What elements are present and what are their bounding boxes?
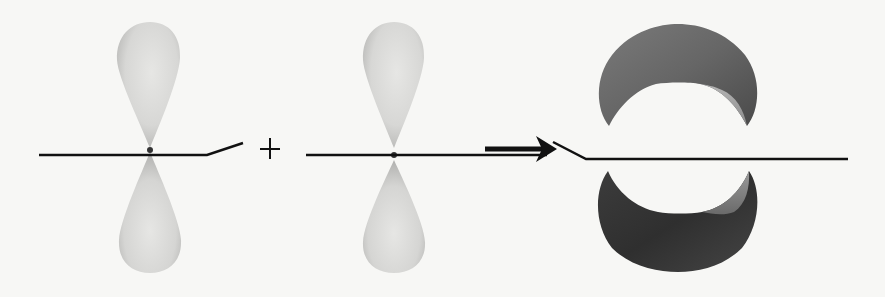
reaction-arrow-icon — [485, 136, 557, 162]
pi-orbital-upper-lobe — [599, 24, 757, 126]
p-orbital-2 — [363, 22, 425, 273]
p-orbital-1 — [117, 22, 181, 273]
pi-bond-orbital — [598, 24, 757, 272]
orbital-diagram — [0, 0, 885, 297]
p-orbital-1-upper-lobe — [117, 22, 180, 148]
p-orbital-1-node — [147, 147, 153, 153]
p-orbital-1-lower-lobe — [119, 152, 181, 273]
p-orbital-2-upper-lobe — [363, 22, 424, 148]
bond-axis-line-1 — [39, 143, 243, 155]
diagram-canvas — [0, 0, 885, 297]
p-orbital-2-lower-lobe — [363, 160, 425, 273]
bond-axis-line-3 — [553, 142, 848, 159]
pi-orbital-lower-lobe — [598, 171, 757, 272]
plus-sign — [260, 138, 280, 159]
